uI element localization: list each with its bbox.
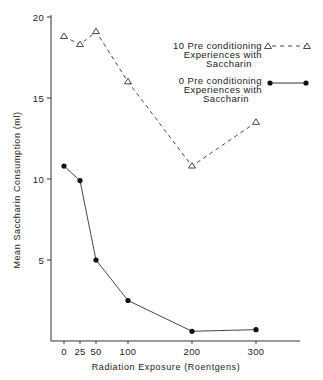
x-tick-label: 200 bbox=[184, 346, 201, 357]
y-tick-label: 5 bbox=[38, 255, 44, 266]
triangle-marker-icon bbox=[93, 28, 100, 34]
circle-marker-icon bbox=[303, 80, 308, 85]
circle-marker-icon bbox=[61, 163, 66, 168]
legend-item-10-preconditioning: 10 Pre conditioning Experiences with Sac… bbox=[173, 40, 310, 69]
x-tick-label: 50 bbox=[90, 346, 101, 357]
y-tick-label: 20 bbox=[33, 12, 44, 23]
line-chart: 5101520 02550100200300 Radiation Exposur… bbox=[0, 0, 323, 380]
y-tick-label: 10 bbox=[33, 174, 44, 185]
circle-marker-icon bbox=[253, 327, 258, 332]
triangle-marker-icon bbox=[125, 78, 132, 84]
x-tick-label: 300 bbox=[248, 346, 265, 357]
legend-label-line3: Saccharin bbox=[206, 58, 252, 69]
circle-marker-icon bbox=[93, 257, 98, 262]
circle-marker-icon bbox=[267, 80, 272, 85]
circle-marker-icon bbox=[125, 298, 130, 303]
triangle-marker-icon bbox=[253, 119, 260, 125]
y-tick-label: 15 bbox=[33, 93, 44, 104]
legend-label-line3: Saccharin bbox=[203, 93, 249, 104]
triangle-marker-icon bbox=[61, 33, 68, 39]
x-tick-label: 100 bbox=[120, 346, 137, 357]
triangle-marker-icon bbox=[189, 163, 196, 169]
triangle-marker-icon bbox=[265, 43, 272, 49]
legend: 10 Pre conditioning Experiences with Sac… bbox=[173, 40, 310, 104]
series-line bbox=[64, 166, 256, 331]
y-axis-ticks: 5101520 bbox=[33, 12, 51, 266]
x-tick-label: 0 bbox=[61, 346, 67, 357]
legend-item-0-preconditioning: 0 Pre conditioning Experiences with Sacc… bbox=[179, 75, 309, 104]
x-axis-ticks: 02550100200300 bbox=[61, 341, 264, 357]
series-1 bbox=[61, 163, 258, 333]
x-tick-label: 25 bbox=[74, 346, 85, 357]
y-axis-label: Mean Saccharin Consumption (ml) bbox=[12, 111, 22, 268]
plot-area bbox=[61, 28, 260, 334]
x-axis-label: Radiation Exposure (Roentgens) bbox=[92, 362, 241, 372]
circle-marker-icon bbox=[77, 178, 82, 183]
circle-marker-icon bbox=[189, 329, 194, 334]
